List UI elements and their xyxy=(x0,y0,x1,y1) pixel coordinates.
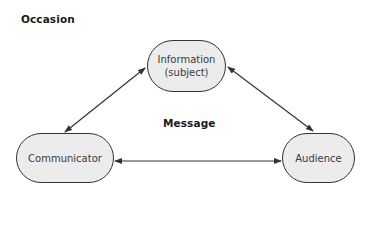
edge-information-audience xyxy=(228,67,313,131)
node-audience-label: Audience xyxy=(295,152,341,165)
node-communicator-label: Communicator xyxy=(28,152,102,165)
node-information: Information (subject) xyxy=(147,40,226,92)
node-audience: Audience xyxy=(282,133,355,183)
node-communicator: Communicator xyxy=(16,133,114,183)
edge-information-communicator xyxy=(65,68,145,132)
node-information-line2: (subject) xyxy=(158,66,216,79)
node-information-line1: Information xyxy=(158,53,216,66)
message-label: Message xyxy=(163,117,216,129)
